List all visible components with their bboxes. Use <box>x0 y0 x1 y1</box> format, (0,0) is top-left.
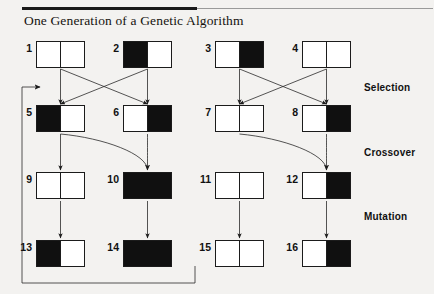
stage-label-mutation: Mutation <box>364 211 407 222</box>
chromosome-gene-right <box>327 42 351 67</box>
chromosome-number: 6 <box>97 107 119 118</box>
chromosome-gene-right <box>240 241 264 266</box>
chromosome-number: 11 <box>189 174 211 185</box>
chromosome-box <box>302 105 351 132</box>
chromosome-number: 7 <box>189 107 211 118</box>
chromosome-box <box>36 172 85 199</box>
chromosome-number: 10 <box>97 174 119 185</box>
chromosome-number: 15 <box>189 242 211 253</box>
chromosome-gene-right <box>327 173 351 198</box>
chromosome-gene-right <box>240 42 264 67</box>
chromosome-number: 14 <box>97 242 119 253</box>
chromosome-gene-left <box>216 241 240 266</box>
chromosome-gene-right <box>240 106 264 131</box>
chromosome-number: 12 <box>276 174 298 185</box>
chromosome-box <box>302 172 351 199</box>
chromosome-gene-left <box>303 241 327 266</box>
chromosome-box <box>123 41 172 68</box>
chromosome-box <box>215 105 264 132</box>
chromosome-box <box>123 172 172 199</box>
chromosome-gene-left <box>303 42 327 67</box>
crossover-arc-5-to-10 <box>61 134 148 170</box>
chromosome-box <box>36 105 85 132</box>
chromosome-gene-right <box>148 173 172 198</box>
chromosome-gene-right <box>327 241 351 266</box>
chromosome-number: 8 <box>276 107 298 118</box>
chromosome-gene-right <box>148 106 172 131</box>
chromosome-box <box>123 240 172 267</box>
chromosome-gene-right <box>148 42 172 67</box>
chromosome-gene-left <box>124 106 148 131</box>
chromosome-gene-left <box>37 173 61 198</box>
chromosome-gene-left <box>124 173 148 198</box>
chromosome-gene-right <box>61 241 85 266</box>
chromosome-gene-left <box>37 42 61 67</box>
chromosome-number: 2 <box>97 43 119 54</box>
chromosome-box <box>36 41 85 68</box>
chromosome-box <box>302 240 351 267</box>
stage-label-selection: Selection <box>364 82 410 93</box>
chromosome-gene-right <box>148 241 172 266</box>
chromosome-gene-right <box>327 106 351 131</box>
chromosome-gene-left <box>124 42 148 67</box>
chromosome-gene-left <box>303 173 327 198</box>
chromosome-box <box>215 172 264 199</box>
chromosome-gene-right <box>61 42 85 67</box>
chromosome-gene-right <box>240 173 264 198</box>
chromosome-box <box>215 41 264 68</box>
chromosome-number: 9 <box>10 174 32 185</box>
chromosome-gene-left <box>303 106 327 131</box>
chromosome-number: 16 <box>276 242 298 253</box>
genetic-algorithm-figure: One Generation of a Genetic Algorithm 12… <box>0 0 434 294</box>
chromosome-gene-right <box>61 106 85 131</box>
chromosome-number: 13 <box>10 242 32 253</box>
stage-label-crossover: Crossover <box>364 147 415 158</box>
crossover-arc-7-to-12 <box>240 134 327 170</box>
chromosome-box <box>215 240 264 267</box>
chromosome-number: 3 <box>189 43 211 54</box>
chromosome-gene-left <box>216 173 240 198</box>
chromosome-box <box>123 105 172 132</box>
chromosome-gene-left <box>37 106 61 131</box>
chromosome-gene-left <box>124 241 148 266</box>
chromosome-gene-left <box>37 241 61 266</box>
chromosome-box <box>302 41 351 68</box>
chromosome-number: 4 <box>276 43 298 54</box>
chromosome-number: 1 <box>10 43 32 54</box>
chromosome-gene-left <box>216 42 240 67</box>
chromosome-gene-left <box>216 106 240 131</box>
chromosome-gene-right <box>61 173 85 198</box>
chromosome-box <box>36 240 85 267</box>
chromosome-number: 5 <box>10 107 32 118</box>
